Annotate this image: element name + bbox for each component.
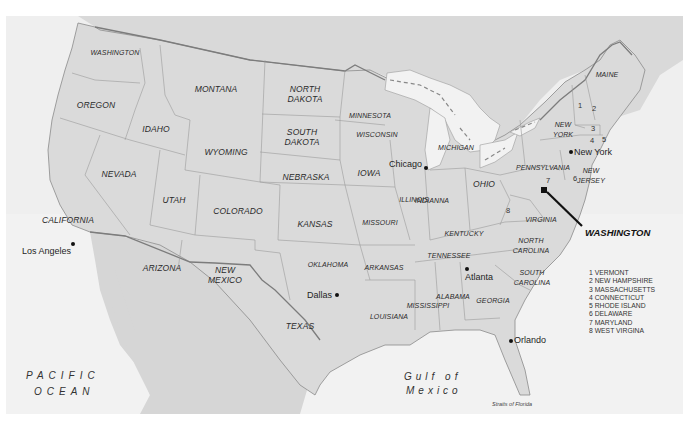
- state-label-pennsylvania: PENNSYLVANIA: [516, 163, 570, 173]
- state-label-wyoming: WYOMING: [204, 147, 247, 157]
- state-number-6: 6: [573, 175, 577, 183]
- city-label-chicago: Chicago: [389, 159, 422, 169]
- legend-item: 5 RHODE ISLAND: [589, 302, 655, 310]
- state-label-arizona: ARIZONA: [143, 263, 181, 273]
- state-number-2: 2: [592, 105, 596, 113]
- state-label-iowa: IOWA: [358, 168, 381, 178]
- state-label-kentucky: KENTUCKY: [445, 229, 484, 239]
- state-label-north-dakota: NORTH DAKOTA: [288, 84, 323, 104]
- city-label-dallas: Dallas: [307, 290, 332, 300]
- state-label-indiana: INDIANNA: [415, 196, 449, 206]
- city-dot-chicago: [424, 166, 428, 170]
- water-label-pacific-2: OCEAN: [34, 385, 95, 399]
- state-label-oklahoma: OKLAHOMA: [308, 260, 348, 270]
- state-label-new-jersey: NEW JERSEY: [577, 166, 605, 186]
- legend-item: 8 WEST VIRGINA: [589, 327, 655, 335]
- state-number-3: 3: [591, 125, 595, 133]
- state-label-nevada: NEVADA: [101, 169, 136, 179]
- state-label-south-dakota: SOUTH DAKOTA: [285, 127, 320, 147]
- state-label-maine: MAINE: [596, 70, 619, 80]
- state-label-oregon: OREGON: [77, 100, 115, 110]
- city-dot-dallas: [335, 293, 339, 297]
- city-dot-new-york: [569, 150, 573, 154]
- legend-item: 6 DELAWARE: [589, 310, 655, 318]
- state-label-new-york: NEW YORK: [553, 120, 573, 140]
- legend-item: 3 MASSACHUSETTS: [589, 286, 655, 294]
- city-label-atlanta: Atlanta: [465, 272, 493, 282]
- state-number-8: 8: [506, 207, 510, 215]
- state-label-wisconsin: WISCONSIN: [356, 130, 397, 140]
- legend-item: 1 VERMONT: [589, 269, 655, 277]
- city-label-new-york: New York: [574, 147, 612, 157]
- state-label-washington: WASHINGTON: [91, 48, 140, 58]
- water-label-pacific-1: PACIFIC: [26, 369, 100, 383]
- water-label-gulf-2: Mexico: [406, 384, 462, 398]
- state-label-louisiana: LOUISIANA: [370, 312, 408, 322]
- state-label-missouri: MISSOURI: [362, 218, 397, 228]
- state-label-nebraska: NEBRASKA: [282, 172, 329, 182]
- map-graphic: [0, 0, 691, 425]
- city-dot-orlando: [509, 339, 513, 343]
- state-label-georgia: GEORGIA: [476, 296, 509, 306]
- legend-item: 4 CONNECTICUT: [589, 294, 655, 302]
- state-number-7: 7: [546, 177, 550, 185]
- state-label-virginia: VIRGINIA: [525, 215, 557, 225]
- state-label-mississippi: MISSISSIPPI: [407, 301, 450, 311]
- state-label-north-carolina: NORTH CAROLINA: [513, 236, 550, 256]
- state-label-idaho: IDAHO: [142, 124, 169, 134]
- water-label-gulf-1: Gulf of: [404, 370, 461, 384]
- state-label-kansas: KANSAS: [297, 219, 332, 229]
- state-label-colorado: COLORADO: [213, 206, 262, 216]
- state-label-texas: TEXAS: [286, 321, 314, 331]
- city-dot-atlanta: [465, 267, 469, 271]
- state-label-new-mexico: NEW MEXICO: [208, 265, 242, 285]
- state-label-arkansas: ARKANSAS: [365, 263, 404, 273]
- state-label-montana: MONTANA: [195, 84, 238, 94]
- legend-item: 7 MARYLAND: [589, 319, 655, 327]
- capital-label: WASHINGTON: [585, 227, 650, 238]
- state-label-michigan: MICHIGAN: [438, 143, 474, 153]
- state-label-tennessee: TENNESSEE: [427, 251, 470, 261]
- water-label-straits-of-florida: Straits of Florida: [492, 401, 532, 407]
- state-number-4: 4: [590, 137, 594, 145]
- state-label-minnesota: MINNESOTA: [349, 111, 391, 121]
- city-label-los-angeles: Los Angeles: [22, 246, 71, 256]
- state-number-5: 5: [602, 136, 606, 144]
- state-label-alabama: ALABAMA: [436, 292, 470, 302]
- city-dot-los-angeles: [71, 242, 75, 246]
- state-number-1: 1: [578, 102, 582, 110]
- legend-item: 2 NEW HAMPSHIRE: [589, 277, 655, 285]
- state-label-south-carolina: SOUTH CAROLINA: [514, 268, 551, 288]
- state-label-california: CALIFORNIA: [42, 215, 94, 225]
- us-map: WASHINGTON OREGON CALIFORNIA IDAHO NEVAD…: [0, 0, 691, 425]
- capital-marker: [541, 187, 547, 193]
- state-label-ohio: OHIO: [473, 179, 495, 189]
- city-label-orlando: Orlando: [514, 335, 546, 345]
- legend: 1 VERMONT 2 NEW HAMPSHIRE 3 MASSACHUSETT…: [589, 269, 655, 335]
- state-label-utah: UTAH: [163, 195, 186, 205]
